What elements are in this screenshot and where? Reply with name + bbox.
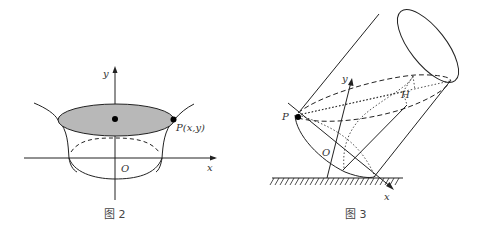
fig3-point-p	[295, 114, 301, 120]
fig3-y-axis	[327, 82, 351, 178]
figure-2	[24, 66, 217, 200]
cylinder-right-side	[374, 80, 451, 177]
fig2-origin-label: O	[121, 163, 129, 174]
left-hyperbola-branch	[34, 103, 58, 120]
fig3-x-axis	[288, 103, 391, 187]
fig3-y-label: y	[341, 73, 348, 84]
fig3-x-axis-arrow-icon	[386, 182, 394, 190]
ground-hatching	[270, 178, 399, 185]
fig3-x-label: x	[384, 191, 390, 202]
cylinder-left-side	[300, 14, 379, 111]
figure-2-caption: 图 2	[104, 208, 126, 221]
diagram-canvas: y x O P(x,y) 图 2	[0, 0, 478, 233]
fig3-point-label: P	[281, 111, 289, 122]
fig2-x-label: x	[207, 162, 213, 173]
fig3-y-axis-arrow-icon	[348, 78, 354, 86]
center-point	[112, 116, 118, 122]
inner-generator-line	[343, 105, 407, 170]
cylinder-top-ellipse	[387, 0, 470, 92]
x-axis-arrow-icon	[210, 156, 217, 161]
fig2-point-label: P(x,y)	[175, 122, 205, 133]
fig3-origin-label: O	[322, 147, 330, 158]
right-hyperbola-branch	[174, 104, 194, 120]
fig3-center-label: H	[400, 89, 410, 100]
surface-ellipse-lower	[298, 81, 450, 121]
figure-3	[270, 0, 469, 190]
y-axis-arrow-icon	[113, 66, 118, 73]
construction-lines	[298, 76, 450, 177]
figure-3-caption: 图 3	[345, 208, 367, 221]
fig2-y-label: y	[102, 68, 109, 79]
